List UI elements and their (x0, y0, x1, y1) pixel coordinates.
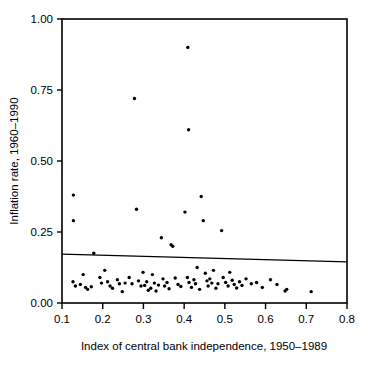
y-tick-label: 0.75 (31, 84, 53, 96)
data-point (100, 281, 103, 284)
data-point (186, 276, 189, 279)
y-tick-label: 0.00 (31, 297, 53, 309)
data-point (216, 282, 219, 285)
data-point (135, 208, 138, 211)
data-point (81, 273, 84, 276)
data-point (285, 288, 288, 291)
data-point (212, 269, 215, 272)
data-point (141, 271, 144, 274)
data-point (153, 281, 156, 284)
data-point (269, 278, 272, 281)
data-point (230, 279, 233, 282)
data-point (151, 273, 154, 276)
data-point (145, 280, 148, 283)
chart-canvas: 0.000.250.500.751.00 0.10.20.30.40.50.60… (0, 0, 365, 365)
data-point (235, 286, 238, 289)
data-point (192, 278, 195, 281)
data-point (195, 266, 198, 269)
data-point (118, 282, 121, 285)
data-point (72, 219, 75, 222)
data-point (255, 281, 258, 284)
data-point (167, 287, 170, 290)
data-point (123, 281, 126, 284)
data-point (208, 277, 211, 280)
data-point (86, 288, 89, 291)
y-axis-title: Inflation rate, 1960–1990 (8, 97, 20, 224)
data-point (202, 219, 205, 222)
data-point (224, 281, 227, 284)
data-point (160, 236, 163, 239)
data-point (149, 287, 152, 290)
data-point (79, 283, 82, 286)
data-point (157, 283, 160, 286)
x-axis-ticks (62, 303, 347, 309)
data-point (228, 271, 231, 274)
data-point (220, 229, 223, 232)
data-point (74, 284, 77, 287)
y-axis-tick-labels: 0.000.250.500.751.00 (31, 13, 53, 309)
data-point (240, 284, 243, 287)
data-point (165, 281, 168, 284)
x-tick-label: 0.2 (95, 313, 111, 325)
data-point (163, 284, 166, 287)
y-tick-label: 0.50 (31, 155, 53, 167)
data-point (226, 284, 229, 287)
data-point (261, 286, 264, 289)
data-point (233, 283, 236, 286)
x-tick-label: 0.6 (258, 313, 274, 325)
data-point (130, 282, 133, 285)
x-tick-label: 0.7 (298, 313, 314, 325)
data-point (133, 97, 136, 100)
data-point (250, 282, 253, 285)
data-point (173, 276, 176, 279)
x-tick-label: 0.3 (135, 313, 151, 325)
data-point (137, 279, 140, 282)
data-point (111, 287, 114, 290)
data-point (187, 128, 190, 131)
data-point (309, 290, 312, 293)
x-tick-label: 0.1 (54, 313, 70, 325)
y-tick-label: 0.25 (31, 226, 53, 238)
data-point (186, 46, 189, 49)
data-point (206, 284, 209, 287)
data-point (183, 210, 186, 213)
data-point (179, 285, 182, 288)
data-point (154, 289, 157, 292)
data-point (210, 281, 213, 284)
x-tick-label: 0.4 (176, 313, 193, 325)
data-point (161, 277, 164, 280)
data-point (187, 281, 190, 284)
data-point (171, 245, 174, 248)
data-point (90, 285, 93, 288)
data-point (238, 280, 241, 283)
data-point (127, 276, 130, 279)
data-point (143, 284, 146, 287)
x-tick-label: 0.5 (217, 313, 233, 325)
data-point (121, 290, 124, 293)
data-point (194, 282, 197, 285)
x-tick-label: 0.8 (339, 313, 355, 325)
x-axis-tick-labels: 0.10.20.30.40.50.60.70.8 (54, 313, 355, 325)
data-point (72, 193, 75, 196)
x-axis-title: Index of central bank independence, 1950… (81, 340, 327, 352)
data-point (244, 277, 247, 280)
data-point (106, 280, 109, 283)
data-point (98, 276, 101, 279)
data-point (103, 269, 106, 272)
data-point (198, 288, 201, 291)
data-point (176, 283, 179, 286)
data-point (190, 286, 193, 289)
y-tick-label: 1.00 (31, 13, 53, 25)
data-point (222, 276, 225, 279)
scatter-plot-figure: 0.000.250.500.751.00 0.10.20.30.40.50.60… (0, 0, 365, 365)
data-point (139, 284, 142, 287)
data-point (205, 279, 208, 282)
data-point (204, 271, 207, 274)
data-point (200, 195, 203, 198)
data-point (116, 278, 119, 281)
data-point (71, 280, 74, 283)
data-point (275, 283, 278, 286)
data-point (214, 287, 217, 290)
